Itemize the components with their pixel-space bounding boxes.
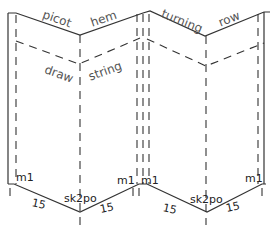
label-count-left-a: 15 [31,196,47,212]
label-m1-right-b: m1 [245,172,263,185]
label-m1-left-b: m1 [141,174,159,187]
label-sk2po-b: sk2po [190,193,223,206]
label-sk2po-a: sk2po [64,192,97,205]
label-m1-right-a: m1 [117,174,135,187]
label-count-left-b: 15 [162,201,178,217]
label-m1-left-a: m1 [16,171,34,184]
drawstring-line-left [16,38,140,64]
chevron-diagram [0,0,271,229]
